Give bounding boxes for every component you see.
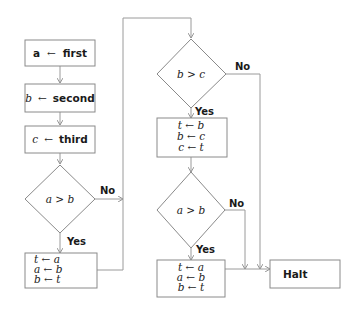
cond1-no-label: No — [100, 185, 115, 196]
edge-cond3-no — [225, 210, 245, 269]
node-swap3: t ← a a ← b b ← t — [157, 260, 225, 297]
swap-line-3: b ← t — [34, 273, 61, 285]
halt-label: Halt — [283, 268, 308, 280]
arrow-symbol: ← — [44, 133, 53, 145]
swap-line-3: b ← t — [178, 281, 205, 293]
condition-label: b > c — [177, 68, 205, 80]
node-cond2: b > c — [157, 39, 226, 108]
node-assign-c: c ← third — [25, 126, 95, 153]
edge-cond2-no — [226, 74, 260, 269]
node-swap1: t ← a a ← b b ← t — [25, 253, 97, 288]
var-label: a — [33, 47, 40, 59]
cond3-yes-label: Yes — [195, 244, 215, 255]
cond1-yes-label: Yes — [66, 236, 86, 247]
node-cond3: a > b — [157, 172, 225, 248]
arrow-symbol: ← — [47, 47, 56, 59]
value-label: third — [59, 133, 88, 145]
var-label: c — [32, 133, 38, 145]
swap-line-3: c ← t — [178, 141, 204, 153]
node-assign-b: b ← second — [25, 84, 95, 112]
value-label: first — [63, 47, 87, 59]
condition-label: a > b — [46, 193, 75, 205]
cond3-no-label: No — [229, 198, 244, 209]
var-label: b — [25, 92, 32, 104]
node-halt: Halt — [270, 260, 340, 288]
condition-label: a > b — [177, 204, 206, 216]
cond2-yes-label: Yes — [194, 106, 214, 117]
node-cond1: a > b — [25, 165, 95, 233]
node-assign-a: a ← first — [25, 40, 95, 66]
node-swap2: t ← b b ← c c ← t — [157, 118, 227, 157]
value-label: second — [53, 92, 95, 104]
cond2-no-label: No — [235, 61, 250, 72]
arrow-symbol: ← — [38, 92, 47, 104]
flowchart: a ← first b ← second c ← third a > b No … — [0, 0, 358, 312]
